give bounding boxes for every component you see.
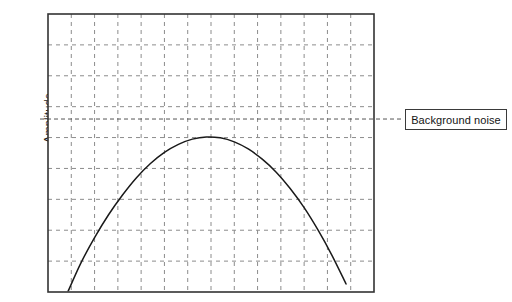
chart-plot-area <box>0 0 512 302</box>
background-noise-label-text: Background noise <box>411 114 501 126</box>
chart-figure: Amplitude Background noise <box>0 0 512 302</box>
background-noise-label-box: Background noise <box>405 109 507 130</box>
